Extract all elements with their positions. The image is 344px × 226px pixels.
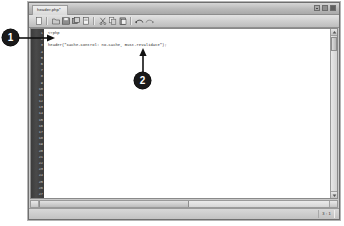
window-titlebar[interactable]: header.php* bbox=[29, 3, 339, 15]
toolbar-group-edit-files bbox=[49, 17, 92, 26]
scroll-right-arrow-icon[interactable] bbox=[329, 201, 337, 207]
redo-icon[interactable] bbox=[145, 17, 154, 26]
editor-vertical-scrollbar[interactable] bbox=[330, 29, 337, 198]
callout-1-arrow bbox=[18, 34, 56, 42]
toolbar-group-history bbox=[133, 17, 156, 26]
line-number-gutter: 1 2 3 4 5 6 7 8 9 10 11 12 13 14 15 16 1… bbox=[31, 29, 44, 198]
editor-toolbar bbox=[29, 15, 339, 28]
scroll-up-arrow-icon[interactable] bbox=[331, 29, 337, 36]
minimize-icon bbox=[316, 8, 318, 9]
minimize-button[interactable] bbox=[314, 5, 320, 11]
callout-badge-1: 1 bbox=[2, 29, 19, 46]
editor-horizontal-scrollbar[interactable] bbox=[30, 200, 338, 208]
tab-label: header.php* bbox=[37, 8, 61, 12]
save-all-icon[interactable] bbox=[71, 17, 80, 26]
toolbar-separator bbox=[46, 17, 48, 25]
print-icon[interactable] bbox=[81, 17, 90, 26]
horizontal-scroll-thumb[interactable] bbox=[39, 201, 189, 207]
callout-badge-2: 2 bbox=[134, 72, 151, 89]
maximize-button[interactable] bbox=[322, 5, 328, 11]
line-number: 27 bbox=[31, 191, 43, 197]
editor-body[interactable]: 1 2 3 4 5 6 7 8 9 10 11 12 13 14 15 16 1… bbox=[30, 28, 338, 199]
new-file-icon[interactable] bbox=[34, 17, 43, 26]
scroll-left-arrow-icon[interactable] bbox=[31, 201, 39, 207]
toolbar-group-file bbox=[32, 17, 45, 26]
toolbar-separator bbox=[130, 17, 132, 25]
status-cursor-position: 3 : 1 bbox=[318, 210, 335, 218]
code-line bbox=[48, 86, 337, 92]
save-icon[interactable] bbox=[61, 17, 70, 26]
vertical-scroll-thumb[interactable] bbox=[331, 37, 337, 51]
undo-icon[interactable] bbox=[135, 17, 144, 26]
code-text-area[interactable]: <?php header("Cache-Control: no-cache, m… bbox=[44, 29, 337, 198]
toolbar-group-clipboard bbox=[96, 17, 129, 26]
cut-icon[interactable] bbox=[98, 17, 107, 26]
paste-icon[interactable] bbox=[118, 17, 127, 26]
copy-icon[interactable] bbox=[108, 17, 117, 26]
close-button[interactable] bbox=[330, 5, 336, 11]
code-editor-window: header.php* bbox=[28, 2, 340, 220]
editor-tab-header-php[interactable]: header.php* bbox=[32, 5, 68, 15]
window-controls bbox=[314, 5, 336, 11]
toolbar-separator bbox=[93, 17, 95, 25]
open-folder-icon[interactable] bbox=[51, 17, 60, 26]
scroll-down-arrow-icon[interactable] bbox=[331, 191, 337, 198]
figure-canvas: header.php* bbox=[0, 0, 344, 226]
editor-status-bar: 3 : 1 bbox=[29, 208, 339, 219]
